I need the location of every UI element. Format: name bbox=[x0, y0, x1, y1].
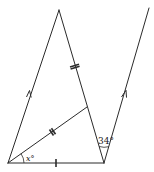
parallel-arrow-icon-left bbox=[27, 91, 32, 98]
geometry-diagram: x° 34° bbox=[0, 0, 154, 172]
double-tick-mark-right-side bbox=[70, 64, 80, 69]
angle-34-label: 34° bbox=[98, 136, 114, 146]
angle-x-label: x° bbox=[26, 154, 35, 163]
angle-34-arc bbox=[99, 147, 109, 148]
cevian-line bbox=[8, 107, 87, 163]
angle-x-arc bbox=[21, 154, 24, 163]
triangle-left-side bbox=[8, 10, 59, 163]
parallel-arrow-icon-right bbox=[122, 90, 127, 97]
